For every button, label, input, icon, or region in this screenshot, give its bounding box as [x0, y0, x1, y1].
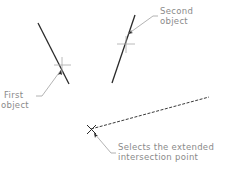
second-object-label-2: object	[160, 16, 188, 26]
second-leader	[128, 16, 158, 34]
result-label: Selects the extended	[118, 142, 214, 152]
extension-dashed-line	[91, 97, 209, 129]
second-pick-crosshair-icon	[117, 36, 135, 53]
first-object-line	[38, 23, 69, 84]
result-label-2: intersection point	[118, 152, 199, 162]
result-leader	[94, 133, 116, 153]
second-object-line	[112, 15, 135, 83]
first-leader	[36, 70, 62, 96]
extended-intersection-diagram: First object Second object Selects the e…	[0, 0, 228, 171]
first-object-label-2: object	[1, 100, 29, 110]
intersection-x-marker-icon	[87, 125, 96, 134]
second-object-label: Second	[160, 6, 193, 16]
first-object-label: First	[4, 90, 24, 100]
